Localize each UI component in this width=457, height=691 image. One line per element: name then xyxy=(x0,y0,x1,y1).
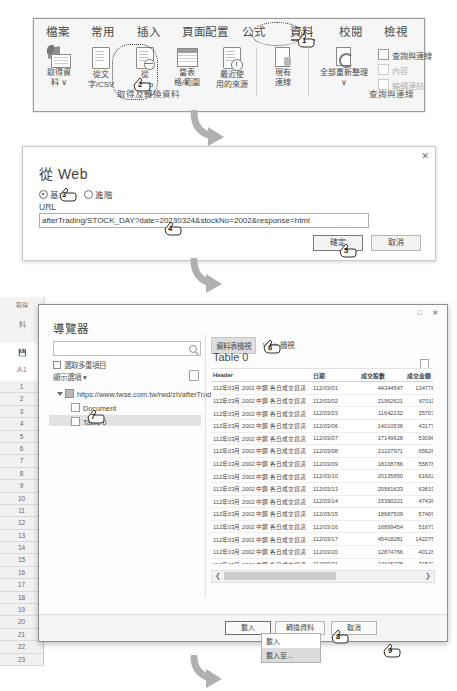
close-icon[interactable]: ✕ xyxy=(421,151,429,161)
preview-title: Table 0 xyxy=(213,351,248,363)
table-cell: 112/03/08 xyxy=(311,445,359,458)
tab-review[interactable]: 校閱 xyxy=(339,23,362,39)
menu-item-load-to[interactable]: 載入至... xyxy=(262,648,320,662)
tab-page-layout[interactable]: 頁面配置 xyxy=(182,23,228,39)
table-cell: 574098024 xyxy=(405,508,433,521)
navigator-titlebar[interactable]: □ ✕ xyxy=(39,305,447,321)
get-data-label-2: 料 ∨ xyxy=(36,78,82,87)
scrollbar-thumb[interactable] xyxy=(224,572,336,580)
document-icon xyxy=(71,403,80,412)
excel-row-header[interactable]: 23 xyxy=(0,654,44,666)
table-cell: 112/03/16 xyxy=(311,520,359,533)
ribbon-group-queries: 全部重新整理 ∨ 查詢與連線 內容 編輯連結 查詢與連線 xyxy=(312,45,422,98)
table-cell: 530967963 xyxy=(405,432,433,445)
table-row: 112年03月 2002 中鋼 各日成交資訊112/03/08211079716… xyxy=(211,445,433,458)
table-cell: 431777660 xyxy=(405,419,433,432)
ribbon-button-from-table-range[interactable]: 當表 格/範圍 xyxy=(164,48,210,87)
tab-home[interactable]: 常用 xyxy=(91,23,114,39)
preview-table-body: 112年03月 2002 中鋼 各日成交資訊112/03/01443445471… xyxy=(211,382,433,564)
table-cell: 15390221 xyxy=(359,495,405,508)
table-cell: 112年03月 2002 中鋼 各日成交資訊 xyxy=(211,533,311,546)
multi-select-checkbox[interactable]: 選取多重項目 xyxy=(53,359,106,370)
table-cell: 616026295 xyxy=(405,470,433,483)
scroll-right-icon[interactable]: ❯ xyxy=(423,572,433,580)
excel-row-header[interactable]: 22 xyxy=(0,641,44,653)
table-cell: 112/03/13 xyxy=(311,482,359,495)
table-cell: 20561633 xyxy=(359,482,405,495)
table-cell: 12874766 xyxy=(359,545,405,558)
col-header-3: 成交金額 xyxy=(405,369,433,382)
ribbon-button-existing-connections[interactable]: 現有 連線 xyxy=(260,47,306,87)
callout-badge-4: 4 xyxy=(168,224,172,233)
web-icon xyxy=(65,389,74,398)
chevron-down-icon[interactable] xyxy=(57,392,63,396)
refresh-label-1: 全部重新整理 xyxy=(314,68,374,77)
load-dropdown-menu: 載入 載入至... xyxy=(261,633,321,663)
refresh-icon xyxy=(336,47,353,67)
table-cell: 21962621 xyxy=(359,394,405,407)
url-input[interactable]: afterTrading/STOCK_DAY?date=20230324&sto… xyxy=(39,213,369,228)
table-cell: 112/03/01 xyxy=(311,382,359,395)
highlight-data-tab xyxy=(252,22,302,46)
table-row: 112年03月 2002 中鋼 各日成交資訊112/03/16168994545… xyxy=(211,520,433,533)
excel-ribbon: 檔案 常用 插入 頁面配置 公式 資料 校閱 檢視 取得資 料 ∨ 從文 字/C… xyxy=(33,18,425,112)
ribbon-button-get-data[interactable]: 取得資 料 ∨ xyxy=(36,47,82,87)
existing-connections-icon xyxy=(275,47,291,67)
cursor-hand-7 xyxy=(86,408,105,425)
table-cell: 474361288 xyxy=(405,495,433,508)
callout-badge-8: 8 xyxy=(336,632,340,641)
tab-view[interactable]: 檢視 xyxy=(384,23,407,39)
queries-and-connections-item[interactable]: 查詢與連線 xyxy=(378,49,432,61)
ribbon-button-refresh-all[interactable]: 全部重新整理 ∨ xyxy=(314,47,374,87)
table-cell: 112/03/21 xyxy=(311,558,359,564)
col-header-1: 日期 xyxy=(311,369,359,382)
table-cell: 45418281 xyxy=(359,533,405,546)
tab-file[interactable]: 檔案 xyxy=(46,23,69,39)
maximize-icon[interactable]: □ xyxy=(414,308,425,317)
checkbox-box xyxy=(53,361,61,369)
table-cell: 112年03月 2002 中鋼 各日成交資訊 xyxy=(211,520,311,533)
scroll-left-icon[interactable]: ❮ xyxy=(213,572,223,580)
menu-item-load[interactable]: 載入 xyxy=(262,634,320,648)
refresh-icon[interactable] xyxy=(189,370,199,381)
table-row: 112年03月 2002 中鋼 各日成交資訊112/03/17454182811… xyxy=(211,533,433,546)
navigator-dialog: □ ✕ 導覽器 選取多重項目 顯示選項 ▾ https://www.twse.c… xyxy=(38,304,448,642)
table-cell: 112/03/10 xyxy=(311,470,359,483)
table-cell: 112年03月 2002 中鋼 各日成交資訊 xyxy=(211,558,311,564)
from-table-label-2: 格/範圍 xyxy=(164,78,210,87)
navigator-section: 取得 料 💾 A1 123456789101112131415161718192… xyxy=(0,297,457,657)
table-cell: 112/03/03 xyxy=(311,407,359,420)
radio-basic-dot xyxy=(39,190,48,199)
existing-label-2: 連線 xyxy=(260,78,306,87)
navigator-footer: 載入 轉換資料 取消 載入 載入至... xyxy=(39,614,447,641)
radio-advanced[interactable]: 進階 xyxy=(84,190,113,200)
table-cell: 112/03/20 xyxy=(311,545,359,558)
cancel-button[interactable]: 取消 xyxy=(371,235,421,251)
cursor-hand-4 xyxy=(163,220,182,237)
table-cell: 112年03月 2002 中鋼 各日成交資訊 xyxy=(211,394,311,407)
table-cell: 112/03/07 xyxy=(311,432,359,445)
table-cell: 16899454 xyxy=(359,520,405,533)
tab-insert[interactable]: 插入 xyxy=(137,23,160,39)
close-icon[interactable]: ✕ xyxy=(430,308,441,317)
table-cell: 112/03/09 xyxy=(311,457,359,470)
table-cell: 18687509 xyxy=(359,508,405,521)
ribbon-tab-strip: 檔案 常用 插入 頁面配置 公式 資料 校閱 檢視 xyxy=(34,19,424,45)
horizontal-scrollbar[interactable]: ❮ ❯ xyxy=(211,570,435,583)
table-cell: 21107971 xyxy=(359,445,405,458)
search-input[interactable] xyxy=(53,341,201,356)
table-cell: 112年03月 2002 中鋼 各日成交資訊 xyxy=(211,482,311,495)
properties-item: 內容 xyxy=(378,64,408,76)
navigator-left-pane: 選取多重項目 顯示選項 ▾ https://www.twse.com.tw/rw… xyxy=(53,341,201,596)
table-row: 112年03月 2002 中鋼 各日成交資訊112/03/10201358506… xyxy=(211,470,433,483)
callout-badge-7: 7 xyxy=(91,412,95,421)
table-row: 112年03月 2002 中鋼 各日成交資訊112/03/02219626216… xyxy=(211,394,433,407)
table-row: 112年03月 2002 中鋼 各日成交資訊112/03/09181087865… xyxy=(211,457,433,470)
table-cell: 112年03月 2002 中鋼 各日成交資訊 xyxy=(211,470,311,483)
radio-advanced-label: 進階 xyxy=(95,190,113,200)
properties-label: 內容 xyxy=(392,67,408,76)
tree-item-root[interactable]: https://www.twse.com.tw/rwd/zh/afterTrad… xyxy=(57,389,227,399)
ribbon-button-recent-sources[interactable]: 最近使 用的來源 xyxy=(209,47,255,89)
display-options-dropdown[interactable]: 顯示選項 ▾ xyxy=(53,371,87,382)
table-cell: 112/03/02 xyxy=(311,394,359,407)
